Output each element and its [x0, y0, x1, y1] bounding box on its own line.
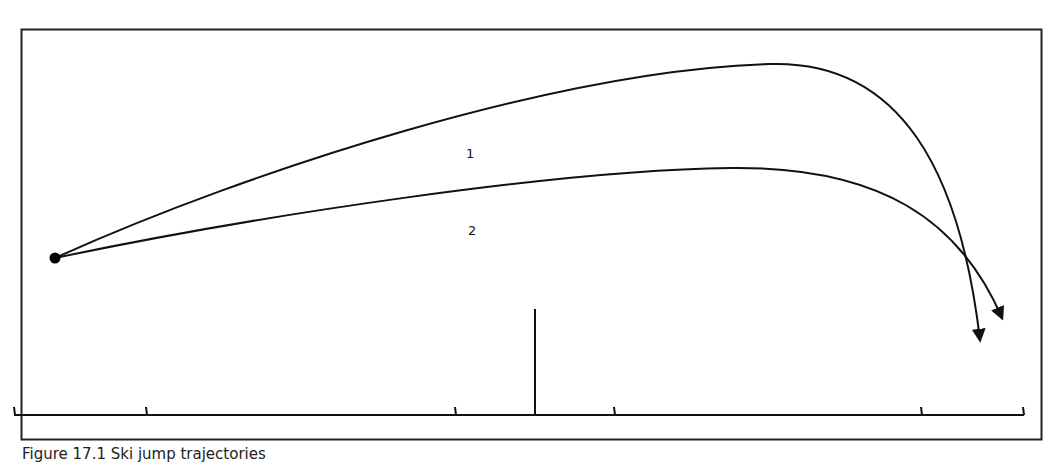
figure-caption: Figure 17.1 Ski jump trajectories	[22, 445, 266, 463]
launch-point	[50, 253, 61, 264]
trajectory-1-label: 1	[466, 146, 474, 161]
ground-ticks	[14, 407, 1024, 415]
trajectory-2-label: 2	[468, 223, 476, 238]
trajectory-1-curve	[55, 64, 980, 340]
trajectory-2-curve	[55, 168, 1002, 318]
